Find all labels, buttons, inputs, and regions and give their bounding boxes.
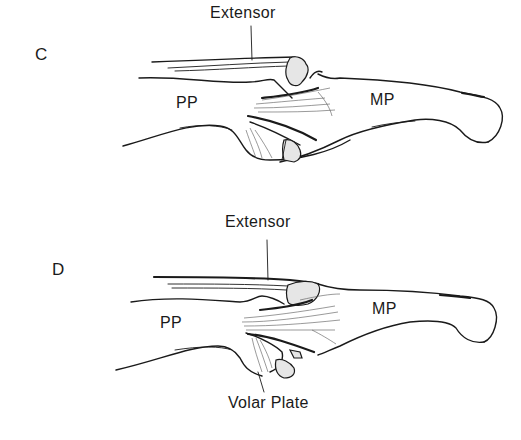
- dorsal-fragment-d: [287, 281, 320, 305]
- panel-c-extensor-label: Extensor: [210, 4, 276, 22]
- dorsal-fragment-c: [286, 57, 308, 86]
- panel-d-pp-label: PP: [160, 314, 182, 332]
- panel-c-pp-label: PP: [176, 94, 198, 112]
- volar-plate-fragment-d: [275, 359, 294, 378]
- panel-c-mp-label: MP: [370, 91, 395, 109]
- panel-d-volar-plate-label: Volar Plate: [228, 394, 309, 412]
- finger-joint-diagram: C Extensor PP MP D Extensor PP MP Volar …: [0, 0, 521, 440]
- extensor-leader-line-d: [267, 240, 268, 280]
- panel-d-letter: D: [52, 260, 64, 280]
- panel-d-mp-label: MP: [372, 300, 397, 318]
- panel-d-extensor-label: Extensor: [225, 213, 291, 231]
- panel-c-letter: C: [35, 45, 47, 65]
- extensor-leader-line-c: [251, 26, 252, 60]
